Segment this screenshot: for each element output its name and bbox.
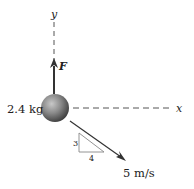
force-label: F [58, 60, 68, 73]
slope-run-label: 4 [89, 154, 94, 163]
free-body-diagram: y x F 2.4 kg 5 m/s 3 4 [0, 0, 194, 189]
velocity-label: 5 m/s [123, 166, 155, 180]
x-axis-label: x [176, 102, 183, 115]
mass-label: 2.4 kg [7, 102, 44, 116]
velocity-arrow [70, 121, 126, 161]
force-arrow [50, 58, 58, 94]
arrowhead-down-right-icon [116, 151, 126, 161]
slope-rise-label: 3 [73, 139, 78, 148]
y-axis-label: y [50, 8, 58, 21]
mass-ball [41, 94, 69, 122]
